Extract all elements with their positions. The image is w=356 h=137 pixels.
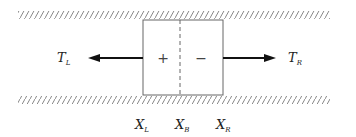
minus-sign: − — [195, 50, 207, 66]
plus-sign: + — [157, 50, 169, 66]
bottom-wall — [18, 96, 330, 104]
left-force-label: TL — [57, 50, 71, 67]
top-wall — [18, 11, 330, 19]
position-label-left: XL — [134, 117, 149, 134]
diagram-canvas: + − TL TR XL XB XR — [0, 0, 356, 137]
position-label-right: XR — [215, 117, 231, 134]
position-label-boundary: XB — [174, 117, 189, 134]
right-force-label: TR — [288, 50, 303, 67]
right-tension-arrow-icon — [223, 54, 276, 62]
left-tension-arrow-icon — [88, 54, 143, 62]
element-box — [143, 20, 223, 95]
